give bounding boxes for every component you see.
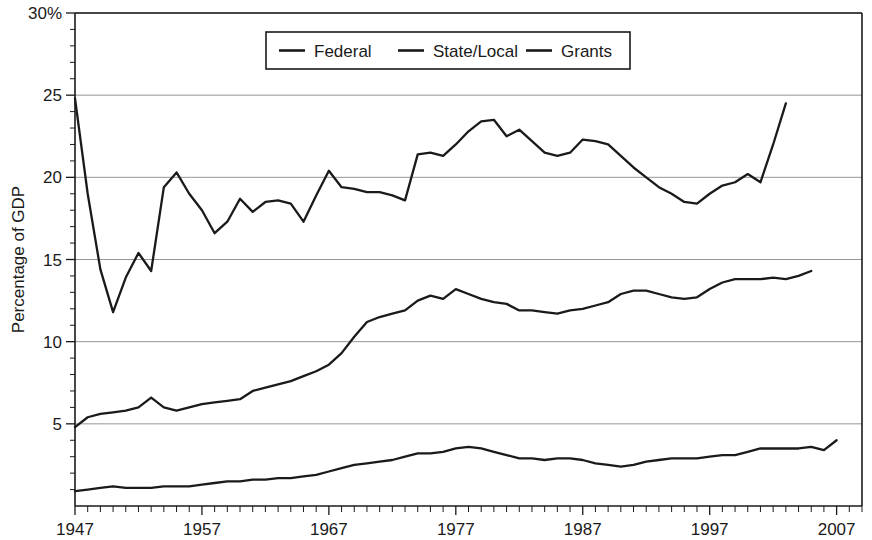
y-tick-label-20: 20 (43, 168, 62, 187)
x-tick-label-1967: 1967 (310, 520, 348, 539)
series-line-grants (75, 440, 837, 491)
y-axis-title: Percentage of GDP (9, 186, 28, 333)
y-tick-label-25: 25 (43, 86, 62, 105)
legend-label: State/Local (433, 42, 518, 61)
x-tick-label-1987: 1987 (564, 520, 602, 539)
series-line-state-local (75, 271, 811, 427)
x-tick-label-1997: 1997 (691, 520, 729, 539)
legend-label: Federal (314, 42, 372, 61)
series-lines (75, 98, 837, 491)
x-tick-label-1977: 1977 (437, 520, 475, 539)
y-tick-label-15: 15 (43, 251, 62, 270)
y-gridlines (75, 13, 862, 424)
y-tick-label-5: 5 (53, 415, 62, 434)
y-tick-labels: 51015202530% (28, 4, 62, 434)
chart-legend: FederalState/LocalGrants (266, 32, 630, 69)
x-tick-labels: 1947195719671977198719972007 (56, 520, 855, 539)
legend-label: Grants (561, 42, 612, 61)
x-tick-label-1947: 1947 (56, 520, 94, 539)
y-tick-label-10: 10 (43, 333, 62, 352)
y-tick-label-30: 30% (28, 4, 62, 23)
chart-container: 51015202530% 194719571967197719871997200… (0, 0, 872, 540)
x-tick-label-1957: 1957 (183, 520, 221, 539)
x-tick-label-2007: 2007 (818, 520, 856, 539)
series-line-federal (75, 98, 786, 312)
axis-ticks (66, 13, 862, 515)
line-chart: 51015202530% 194719571967197719871997200… (0, 0, 872, 540)
y-axis-title-text: Percentage of GDP (9, 186, 28, 333)
